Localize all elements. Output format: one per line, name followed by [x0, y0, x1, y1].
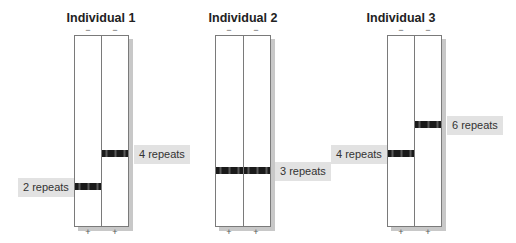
lane-1-negative-sign: −: [226, 26, 231, 35]
lane-1-positive-sign: +: [85, 228, 90, 237]
individual-1-panel: Individual 1 − − + + 2 repeats 4 repeats: [0, 0, 180, 243]
lane-2-negative-sign: −: [253, 26, 258, 35]
lane-divider: [101, 36, 102, 226]
lane-2-positive-sign: +: [425, 228, 430, 237]
band-label: 2 repeats: [18, 178, 74, 197]
dna-band: [388, 150, 414, 157]
band-label: 4 repeats: [331, 145, 387, 164]
lane-divider: [243, 36, 244, 226]
dna-band: [75, 183, 101, 190]
individual-2-panel: Individual 2 − − + + 3 repeats: [180, 0, 350, 243]
individual-1-title: Individual 1: [67, 11, 136, 25]
band-label: 3 repeats: [275, 162, 331, 181]
lane-1-positive-sign: +: [398, 228, 403, 237]
lane-divider: [414, 36, 415, 226]
lane-2-negative-sign: −: [425, 26, 430, 35]
dna-band: [415, 121, 441, 128]
lane-1-negative-sign: −: [85, 26, 90, 35]
individual-2-title: Individual 2: [209, 11, 278, 25]
gel: [387, 35, 442, 227]
individual-3-title: Individual 3: [367, 11, 436, 25]
gel: [74, 35, 129, 227]
dna-band: [216, 167, 243, 174]
lane-1-negative-sign: −: [398, 26, 403, 35]
band-label: 6 repeats: [447, 116, 503, 135]
dna-band: [244, 167, 270, 174]
lane-2-negative-sign: −: [112, 26, 117, 35]
gel: [215, 35, 271, 227]
lane-2-positive-sign: +: [253, 228, 258, 237]
dna-band: [102, 150, 128, 157]
lane-1-positive-sign: +: [226, 228, 231, 237]
individual-3-panel: Individual 3 − − + + 4 repeats 6 repeats: [330, 0, 516, 243]
lane-2-positive-sign: +: [112, 228, 117, 237]
